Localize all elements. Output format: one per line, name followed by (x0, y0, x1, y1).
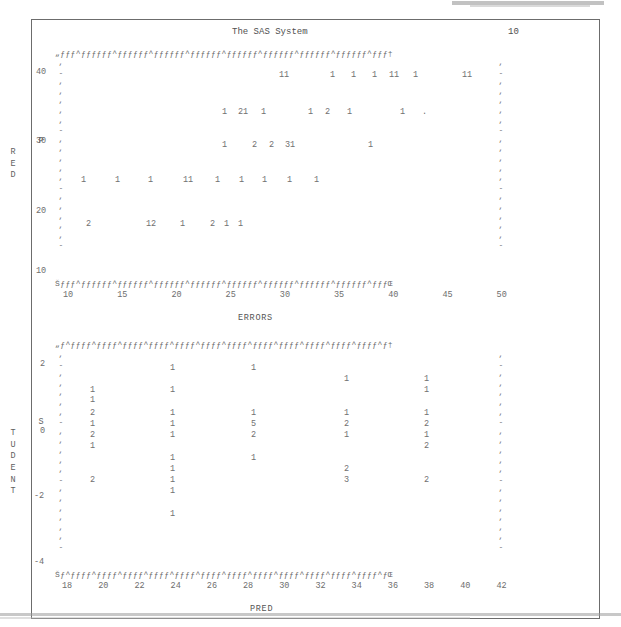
plot2-xtick-34: 34 (352, 582, 362, 591)
plot1-point-count: 1 (115, 176, 120, 185)
plot1-point-count: 1 (400, 108, 405, 117)
plot2-point-count: 1 (170, 364, 175, 373)
plot1-xtick-30: 30 (280, 291, 290, 300)
plot1-point-count: 2 (325, 108, 330, 117)
plot1-point-count: 1 (222, 141, 227, 150)
plot2-xtick-26: 26 (207, 582, 217, 591)
plot2-point-count: 1 (90, 386, 95, 395)
scan-artifact-bar-bottom (0, 613, 621, 616)
plot2-xtick-36: 36 (388, 582, 398, 591)
plot2-point-count: 1 (344, 409, 349, 418)
plot1-point-count: 1 (347, 108, 352, 117)
plot1-ytick-20: 20 (36, 207, 46, 216)
plot1-point-count: 2 (210, 220, 215, 229)
plot1-point-count: 1 (262, 176, 267, 185)
plot2-xtick-20: 20 (98, 582, 108, 591)
plot1-xtick-10: 10 (63, 291, 73, 300)
plot2-point-count: 2 (90, 431, 95, 440)
plot1-point-count: 11 (279, 71, 289, 80)
plot2-point-count: 1 (424, 431, 429, 440)
plot2-ytick-neg2: -2 (34, 492, 44, 501)
plot2-point-count: 1 (344, 431, 349, 440)
plot2-xtick-30: 30 (279, 582, 289, 591)
plot1-point-count: 1 (239, 176, 244, 185)
plot2-point-count: 1 (170, 465, 175, 474)
plot2-point-count: 1 (170, 420, 175, 429)
plot1-point-count: 2 (252, 141, 257, 150)
plot1-point-count: 1 (261, 108, 266, 117)
plot1-point-count: 1 (180, 220, 185, 229)
plot1-point-count: . (422, 108, 427, 117)
plot2-xtick-42: 42 (496, 582, 506, 591)
plot1-point-count: 1 (351, 71, 356, 80)
plot2-point-count: 1 (170, 510, 175, 519)
plot2-point-count: 1 (90, 396, 95, 405)
plot2-point-count: 2 (424, 476, 429, 485)
plot2-point-count: 1 (170, 386, 175, 395)
plot2-point-count: 1 (424, 386, 429, 395)
plot2-left-axis: , - , , , , , - , , , , , - , , , , , , … (57, 350, 65, 551)
plot2-point-count: 2 (90, 476, 95, 485)
plot1-y-axis-label: P R E D (8, 124, 18, 194)
plot2-point-count: 1 (170, 454, 175, 463)
plot2-y-axis-label: S T U D E N T (8, 405, 18, 509)
plot2-point-count: 1 (424, 375, 429, 384)
plot1-point-count: 11 (183, 176, 193, 185)
plot1-point-count: 1 (314, 176, 319, 185)
plot2-point-count: 2 (251, 431, 256, 440)
plot1-point-count: 2 (269, 141, 274, 150)
plot2-point-count: 1 (170, 487, 175, 496)
plot1-point-count: 1 (238, 220, 243, 229)
plot1-point-count: 11 (389, 71, 399, 80)
plot2-right-axis: , - , , , , , - , , , , , - , , , , , , … (497, 350, 505, 551)
plot1-x-axis-label: ERRORS (238, 313, 273, 323)
plot2-xtick-32: 32 (315, 582, 325, 591)
plot1-ytick-10: 10 (36, 267, 46, 276)
plot1-point-count: 1 (368, 141, 373, 150)
plot1-xtick-35: 35 (334, 291, 344, 300)
plot1-left-axis: , - , , , , , - , , , , , - , , , , , - (57, 58, 65, 250)
plot1-xtick-25: 25 (226, 291, 236, 300)
plot1-point-count: 1 (81, 176, 86, 185)
plot2-point-count: 1 (90, 420, 95, 429)
page-number: 10 (508, 27, 519, 37)
plot2-point-count: 1 (170, 431, 175, 440)
sas-output-page: The SAS System 10 „ƒƒƒ^ƒƒƒƒƒƒ^ƒƒƒƒƒƒ^ƒƒƒ… (0, 0, 621, 627)
plot1-point-count: 11 (462, 71, 472, 80)
plot2-xtick-22: 22 (134, 582, 144, 591)
plot1-point-count: 2 (86, 220, 91, 229)
plot1-bottom-frame: Šƒƒƒ^ƒƒƒƒƒƒ^ƒƒƒƒƒƒ^ƒƒƒƒƒƒ^ƒƒƒƒƒƒ^ƒƒƒƒƒƒ^… (55, 280, 393, 288)
scan-artifact-bar-top-secondary (470, 5, 590, 7)
printed-page-frame (31, 19, 600, 619)
plot2-point-count: 1 (251, 409, 256, 418)
plot1-xtick-45: 45 (442, 291, 452, 300)
plot1-xtick-50: 50 (497, 291, 507, 300)
plot2-point-count: 1 (90, 442, 95, 451)
plot1-ytick-40: 40 (36, 68, 46, 77)
plot2-point-count: 1 (424, 409, 429, 418)
plot2-point-count: 1 (170, 476, 175, 485)
plot2-ytick-neg4: -4 (34, 558, 44, 567)
plot2-xtick-18: 18 (62, 582, 72, 591)
plot1-point-count: 1 (287, 176, 292, 185)
plot1-point-count: 1 (222, 108, 227, 117)
scan-artifact-bar-bottom-secondary (0, 617, 470, 619)
plot2-ytick-0: 0 (40, 427, 45, 436)
plot2-point-count: 1 (170, 409, 175, 418)
plot1-xtick-20: 20 (171, 291, 181, 300)
plot1-point-count: 1 (413, 71, 418, 80)
plot1-point-count: 1 (372, 71, 377, 80)
plot1-point-count: 21 (238, 108, 248, 117)
plot2-point-count: 2 (424, 420, 429, 429)
plot1-point-count: 31 (285, 141, 295, 150)
plot2-xtick-24: 24 (171, 582, 181, 591)
plot1-point-count: 1 (224, 220, 229, 229)
plot2-point-count: 2 (344, 420, 349, 429)
plot1-xtick-15: 15 (117, 291, 127, 300)
plot1-point-count: 1 (215, 176, 220, 185)
plot2-ytick-2: 2 (40, 360, 45, 369)
plot2-point-count: 5 (251, 420, 256, 429)
plot2-xtick-28: 28 (243, 582, 253, 591)
plot2-xtick-38: 38 (424, 582, 434, 591)
plot2-point-count: 2 (90, 409, 95, 418)
